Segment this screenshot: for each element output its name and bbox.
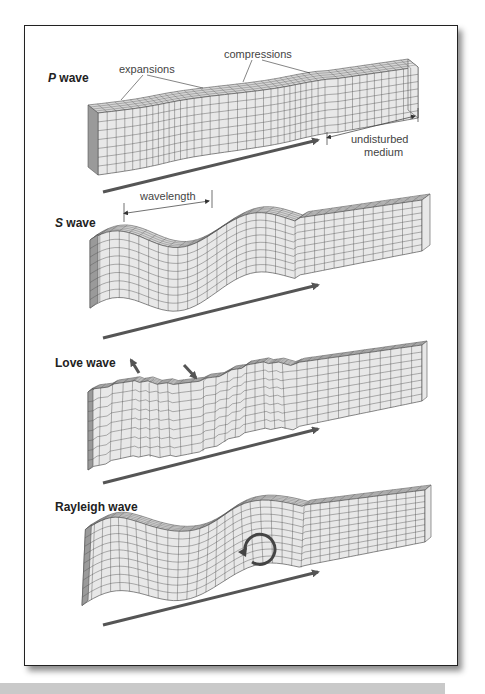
p-wave-panel: P wave expansions compressions undisturb…	[48, 48, 418, 192]
bottom-scroll-bar	[0, 683, 445, 694]
expansions-leader-2	[147, 75, 203, 88]
love-motion-arrow-right	[184, 365, 196, 378]
rayleigh-wave-title: Rayleigh wave	[55, 500, 138, 514]
compressions-leader-2	[262, 60, 310, 73]
love-wave-panel: Love wave	[55, 341, 427, 483]
block-end-face	[88, 388, 93, 470]
s-wave-title: S wave	[55, 216, 96, 230]
s-wave-panel: S wave wavelength	[55, 190, 430, 338]
compressions-label: compressions	[224, 48, 292, 60]
undisturbed-label-line2: medium	[364, 146, 403, 158]
expansions-label: expansions	[119, 63, 175, 75]
seismic-waves-diagram: P wave expansions compressions undisturb…	[0, 0, 485, 694]
undisturbed-label-line1: undisturbed	[351, 133, 409, 145]
wavelength-span-arrow	[127, 201, 209, 213]
compressions-leader-1	[243, 60, 252, 82]
p-wave-title: P wave	[48, 71, 89, 85]
expansions-leader-1	[121, 75, 143, 100]
rayleigh-wave-panel: Rayleigh wave	[55, 485, 431, 625]
love-motion-arrow-left	[131, 360, 139, 373]
wavelength-label: wavelength	[139, 190, 196, 202]
block-right-face	[408, 59, 418, 118]
love-wave-title: Love wave	[55, 356, 116, 370]
s-wave-block	[90, 194, 430, 311]
block-right-face	[422, 341, 427, 401]
block-right-face	[425, 485, 431, 542]
block-right-face	[422, 194, 430, 251]
block-end-face	[88, 105, 98, 175]
love-wave-block	[88, 341, 427, 470]
